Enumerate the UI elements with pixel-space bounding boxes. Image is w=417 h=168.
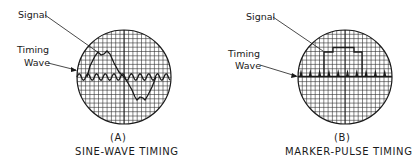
panel-letter-a: (A) bbox=[110, 132, 126, 143]
panel-marker-pulse-timing: Signal Timing Wave (B) MARKER-PULSE TIMI… bbox=[210, 0, 417, 168]
timing-leader-b bbox=[260, 65, 296, 76]
timing-label-b-line1: Timing bbox=[228, 48, 260, 59]
oscilloscope-screen-a bbox=[0, 0, 210, 168]
panel-letter-b: (B) bbox=[334, 132, 350, 143]
signal-label-b: Signal bbox=[246, 11, 275, 22]
signal-label-a: Signal bbox=[18, 9, 47, 20]
timing-label-a-line2: Wave bbox=[24, 57, 50, 68]
caption-b: MARKER-PULSE TIMING bbox=[285, 146, 412, 157]
signal-leader-a bbox=[45, 15, 99, 53]
signal-leader-b bbox=[273, 17, 323, 51]
arrowhead-icon bbox=[291, 73, 298, 78]
arrowhead-icon bbox=[71, 67, 77, 72]
timing-label-a-line1: Timing bbox=[17, 44, 49, 55]
timing-label-b-line2: Wave bbox=[235, 60, 261, 71]
panel-sine-wave-timing: Signal Timing Wave (A) SINE-WAVE TIMING bbox=[0, 0, 210, 168]
caption-a: SINE-WAVE TIMING bbox=[75, 146, 179, 157]
oscilloscope-screen-b bbox=[210, 0, 417, 168]
